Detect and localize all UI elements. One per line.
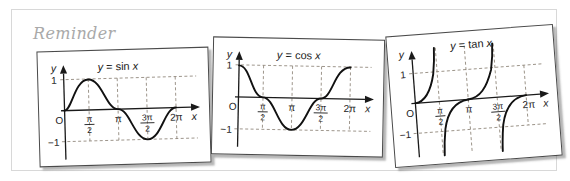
tangent-xtick-3pi-over-2-den: 2 bbox=[496, 112, 502, 122]
tangent-xtick-pi-over-2-num: π bbox=[437, 105, 444, 115]
sine-xtick-3pi-over-2-den: 2 bbox=[145, 123, 150, 133]
cosine-xtick-pi: π bbox=[288, 102, 295, 113]
sine-xtick-pi-over-2-den: 2 bbox=[87, 125, 92, 135]
tangent-branches bbox=[411, 41, 530, 157]
sine-graph-card: y = sin x y 1 −1 O π 2 π 3π 2 2π x bbox=[36, 47, 211, 168]
cosine-axes bbox=[234, 51, 375, 149]
sine-xtick-2pi: 2π bbox=[170, 111, 183, 122]
sine-graph-svg: y = sin x y 1 −1 O π 2 π 3π 2 2π x bbox=[37, 48, 210, 167]
cosine-graph-card: y = cos x y 1 −1 O π 2 π 3π 2 2π x bbox=[211, 36, 385, 157]
sine-title: y = sin x bbox=[96, 60, 138, 73]
cosine-ytick-1: 1 bbox=[226, 60, 232, 71]
cosine-xtick-2pi: 2π bbox=[343, 103, 356, 114]
tangent-graph-svg: y = tan x y 1 −1 O π 2 π 3π 2 2π x bbox=[386, 25, 561, 167]
cosine-xtick-3pi-over-2-num: 3π bbox=[315, 102, 326, 112]
cosine-xtick-pi-over-2-den: 2 bbox=[260, 112, 265, 122]
tangent-x-axis-label: x bbox=[542, 96, 550, 108]
sine-xtick-pi-over-2-num: π bbox=[86, 114, 92, 124]
sine-curve bbox=[64, 77, 177, 142]
cosine-xtick-pi-over-2-num: π bbox=[260, 101, 266, 111]
tangent-xtick-pi-over-2-den: 2 bbox=[438, 116, 444, 126]
sine-y-axis-label: y bbox=[50, 62, 57, 74]
cosine-title: y = cos x bbox=[276, 49, 321, 62]
cosine-ytick-minus1: −1 bbox=[220, 124, 232, 135]
cosine-y-axis-label: y bbox=[226, 48, 233, 60]
cosine-xtick-3pi-over-2-den: 2 bbox=[318, 113, 323, 123]
tangent-xtick-pi: π bbox=[465, 103, 473, 114]
reminder-frame: Reminder y = sin x bbox=[11, 9, 557, 171]
sine-xtick-3pi-over-2-num: 3π bbox=[142, 112, 153, 122]
sine-ytick-minus1: −1 bbox=[48, 137, 60, 148]
tangent-xtick-2pi: 2π bbox=[522, 98, 535, 110]
tangent-title: y = tan x bbox=[449, 36, 493, 51]
tangent-ytick-minus1: −1 bbox=[399, 129, 412, 141]
tangent-graph-card: y = tan x y 1 −1 O π 2 π 3π 2 2π x bbox=[385, 24, 562, 168]
sine-x-axis-label: x bbox=[190, 110, 197, 122]
cosine-graph-svg: y = cos x y 1 −1 O π 2 π 3π 2 2π x bbox=[212, 37, 384, 156]
tangent-xtick-3pi-over-2-num: 3π bbox=[492, 101, 503, 112]
tangent-origin-label: O bbox=[406, 108, 415, 120]
reminder-heading: Reminder bbox=[33, 24, 116, 43]
sine-xtick-pi: π bbox=[115, 113, 122, 124]
cosine-origin-label: O bbox=[229, 101, 237, 112]
sine-origin-label: O bbox=[55, 115, 63, 126]
sine-ytick-1: 1 bbox=[51, 75, 57, 86]
tangent-ytick-1: 1 bbox=[400, 69, 407, 80]
cosine-x-axis-label: x bbox=[364, 102, 371, 114]
tangent-y-axis-label: y bbox=[397, 48, 405, 60]
